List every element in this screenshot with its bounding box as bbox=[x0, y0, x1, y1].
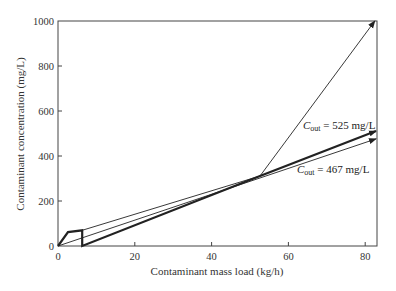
x-tick-label: 20 bbox=[130, 251, 141, 262]
y-tick-label: 600 bbox=[38, 106, 54, 117]
annotation-cout-467: Cout = 467 mg/L bbox=[297, 163, 370, 177]
chart: 02004006008001000 020406080 Cout = 525 m… bbox=[0, 0, 396, 291]
plot-frame bbox=[58, 21, 377, 246]
annotation-cout-525: Cout = 525 mg/L bbox=[303, 119, 376, 133]
x-tick-label: 0 bbox=[55, 251, 60, 262]
y-axis-title: Contaminant concentration (mg/L) bbox=[14, 57, 27, 211]
x-axis-title: Contaminant mass load (kg/h) bbox=[151, 265, 284, 278]
y-tick-label: 0 bbox=[49, 241, 54, 252]
y-tick-label: 1000 bbox=[33, 16, 54, 27]
series-group bbox=[58, 21, 376, 246]
y-tick-label: 800 bbox=[38, 61, 54, 72]
y-tick-label: 400 bbox=[38, 151, 54, 162]
x-tick-label: 40 bbox=[206, 251, 217, 262]
x-tick-label: 80 bbox=[360, 251, 371, 262]
series-line-0 bbox=[58, 131, 376, 246]
series-line-1 bbox=[58, 139, 376, 246]
y-tick-label: 200 bbox=[38, 196, 54, 207]
x-axis: 020406080 bbox=[55, 242, 370, 262]
x-tick-label: 60 bbox=[283, 251, 294, 262]
series-line-2 bbox=[82, 176, 260, 230]
